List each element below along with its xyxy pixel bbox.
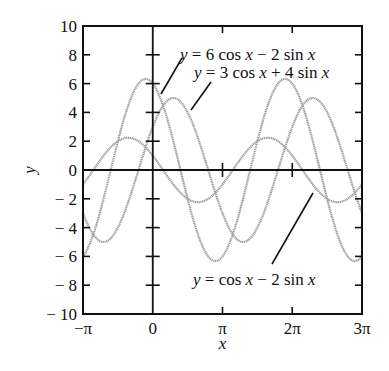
leader-line-3: [272, 193, 313, 264]
leader-line-1: [161, 58, 182, 94]
y-tick-label: − 2: [55, 190, 77, 209]
y-tick-label: 2: [69, 132, 78, 151]
equation-label-3: y = cos x − 2 sin x: [191, 270, 316, 289]
y-axis-title: y: [20, 166, 39, 176]
equation-label-2: y = 3 cos x + 4 sin x: [192, 63, 330, 82]
x-tick-label: 2π: [284, 319, 302, 338]
y-tick-label: − 8: [55, 276, 77, 295]
x-tick-label: 3π: [353, 319, 371, 338]
curve-annotations: y = 6 cos x − 2 sin xy = 3 cos x + 4 sin…: [161, 45, 330, 289]
y-tick-label: − 6: [55, 247, 77, 266]
x-tick-label: −π: [74, 319, 93, 338]
y-tick-label: 4: [69, 103, 78, 122]
y-tick-label: 6: [69, 75, 78, 94]
leader-line-2: [191, 82, 211, 110]
x-tick-label: 0: [148, 319, 157, 338]
equation-label-1: y = 6 cos x − 2 sin x: [178, 45, 316, 64]
y-tick-label: − 4: [55, 219, 78, 238]
y-tick-label: 10: [60, 17, 77, 36]
y-tick-label: 0: [69, 161, 78, 180]
chart-figure: 1086420− 2− 4− 6− 8− 10−π0π2π3π x y y = …: [0, 0, 389, 371]
x-axis-title: x: [218, 334, 227, 353]
y-tick-label: 8: [69, 46, 78, 65]
y-tick-label: − 10: [46, 305, 77, 324]
